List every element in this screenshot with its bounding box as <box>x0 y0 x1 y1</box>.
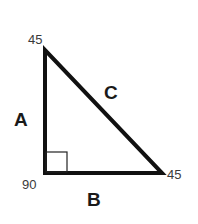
right-triangle-diagram: 45 90 45 A B C <box>0 0 198 224</box>
angle-label-bottom-right: 45 <box>167 167 181 182</box>
angle-label-top: 45 <box>28 32 42 47</box>
right-angle-marker <box>46 152 67 172</box>
side-label-a: A <box>14 109 28 130</box>
side-label-b: B <box>87 189 101 210</box>
side-label-c: C <box>104 82 118 103</box>
angle-label-bottom-left: 90 <box>22 177 36 192</box>
triangle-outline <box>45 50 162 173</box>
